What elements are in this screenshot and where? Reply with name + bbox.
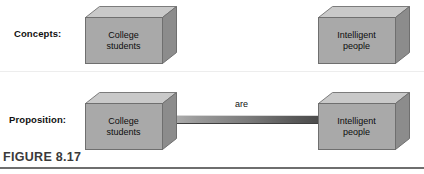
proposition-link-bar — [162, 115, 321, 124]
proposition-link-label: are — [162, 99, 321, 109]
concept-box-intelligent-people: Intelligent people — [318, 6, 410, 64]
proposition-box-intelligent-people: Intelligent people — [318, 92, 410, 150]
box-3d-shape — [85, 6, 177, 64]
caption-rule — [0, 167, 424, 169]
concept-box-college-students: College students — [85, 6, 177, 64]
panel-divider — [0, 71, 424, 72]
figure-container: Concepts: College students Intelligent p… — [0, 0, 424, 174]
row-label-concepts: Concepts: — [14, 28, 61, 39]
box-3d-shape — [85, 92, 177, 150]
box-3d-shape — [318, 6, 410, 64]
row-label-proposition: Proposition: — [9, 114, 66, 125]
box-3d-shape — [318, 92, 410, 150]
figure-caption: FIGURE 8.17 — [3, 150, 81, 164]
proposition-box-college-students: College students — [85, 92, 177, 150]
